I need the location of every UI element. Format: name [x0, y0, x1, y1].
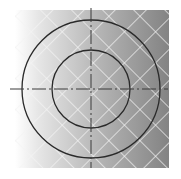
diagram-canvas: [0, 0, 181, 179]
